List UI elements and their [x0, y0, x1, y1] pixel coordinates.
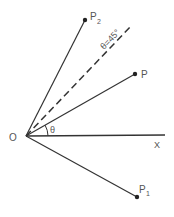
- point-p-label: P: [141, 69, 148, 80]
- line-op1: [26, 136, 137, 197]
- dashed-45-line: [26, 25, 132, 136]
- point-p2-label: P: [90, 11, 97, 22]
- origin-label: O: [9, 132, 17, 143]
- point-p1-subscript: 1: [146, 190, 150, 197]
- point-p1-label: P: [139, 184, 146, 195]
- point-p2-subscript: 2: [97, 18, 101, 25]
- point-p1-dot: [135, 195, 139, 199]
- theta-label: θ: [50, 125, 55, 135]
- x-axis-label: X: [154, 140, 160, 150]
- theta-arc: [45, 125, 48, 136]
- x-axis-line: [26, 135, 165, 136]
- point-p-dot: [133, 72, 137, 76]
- point-p2-dot: [83, 18, 87, 22]
- reflection-diagram: O X θ P P 2 P 1 θ=45°: [0, 0, 174, 217]
